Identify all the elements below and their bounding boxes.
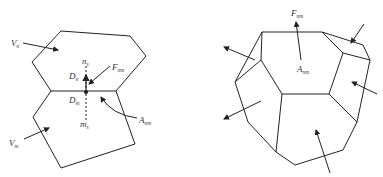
fnm-arrow-right: [296, 22, 301, 60]
label-anm-right: Anm: [296, 64, 309, 75]
right-labels: Fnm Anm: [290, 8, 309, 75]
polyhedron-outline: [235, 32, 370, 165]
center-point: [84, 90, 87, 93]
inward-arrow-top-right: [351, 24, 364, 43]
vn-arrow: [23, 43, 58, 50]
label-fnm: Fnm: [111, 62, 124, 73]
label-dn: Dn: [68, 71, 79, 82]
label-vm: Vm: [9, 138, 19, 149]
inward-arrow-bottom: [316, 130, 330, 173]
label-ns: ns: [82, 56, 89, 67]
cell-n-polygon: [32, 31, 146, 91]
right-figure: [224, 22, 377, 173]
fnm-arrow: [89, 66, 110, 84]
diagram-canvas: Vn Vm ns ms Dn Dm Fnm Anm Fnm Anm: [0, 0, 383, 177]
left-figure: [23, 31, 146, 168]
edge-bottom-left: [276, 94, 282, 152]
edge-left: [235, 60, 261, 82]
label-ms: ms: [80, 119, 89, 130]
label-dm: Dm: [68, 95, 80, 106]
edge-right-lower: [329, 94, 357, 122]
edge-right-upper: [343, 53, 370, 60]
label-anm: Anm: [138, 115, 151, 126]
label-vn: Vn: [11, 38, 20, 49]
cell-m-polygon: [33, 91, 135, 168]
label-fnm-right: Fnm: [290, 8, 303, 19]
vm-arrow: [24, 128, 49, 139]
left-labels: Vn Vm ns ms Dn Dm Fnm Anm: [9, 38, 151, 149]
top-face: [261, 32, 343, 94]
